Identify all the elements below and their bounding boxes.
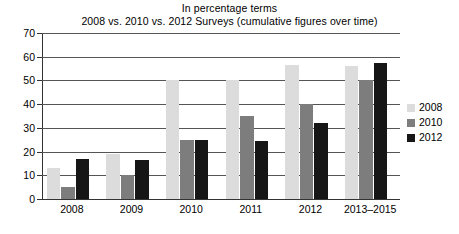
bar <box>226 80 240 199</box>
chart-title-block: In percentage terms 2008 vs. 2010 vs. 20… <box>0 2 459 28</box>
bar <box>240 116 254 199</box>
legend-item-label: 2008 <box>419 102 442 113</box>
bar <box>255 141 269 199</box>
y-axis-tick-label: 20 <box>6 147 35 158</box>
legend-swatch-icon <box>407 134 415 142</box>
gridline <box>42 57 400 58</box>
bar <box>47 168 61 199</box>
y-axis-tick-label: 60 <box>6 52 35 63</box>
legend-swatch-icon <box>407 104 415 112</box>
bar-chart: In percentage terms 2008 vs. 2010 vs. 20… <box>0 0 459 234</box>
bar <box>76 159 90 199</box>
bar <box>285 65 299 199</box>
bar <box>166 80 180 199</box>
chart-subtitle: 2008 vs. 2010 vs. 2012 Surveys (cumulati… <box>0 15 459 28</box>
bar <box>135 160 149 199</box>
y-axis-tick-label: 50 <box>6 75 35 86</box>
bar <box>359 80 373 199</box>
chart-legend: 200820102012 <box>407 101 442 146</box>
x-axis-line <box>42 199 400 200</box>
x-axis-tick-label: 2013–2015 <box>330 203 410 215</box>
legend-item[interactable]: 2012 <box>407 131 442 144</box>
bar <box>121 175 135 199</box>
bar <box>180 140 194 199</box>
chart-title: In percentage terms <box>0 2 459 15</box>
legend-swatch-icon <box>407 119 415 127</box>
legend-item[interactable]: 2010 <box>407 116 442 129</box>
bar <box>374 63 388 199</box>
bar <box>300 104 314 199</box>
legend-item-label: 2010 <box>419 117 442 128</box>
y-axis-tick-label: 40 <box>6 99 35 110</box>
bar <box>106 154 120 199</box>
plot-area <box>42 33 400 199</box>
y-axis-tick-label: 70 <box>6 28 35 39</box>
y-axis-tick-label: 0 <box>6 194 35 205</box>
bar <box>195 140 209 199</box>
legend-item[interactable]: 2008 <box>407 101 442 114</box>
bar <box>61 187 75 199</box>
legend-item-label: 2012 <box>419 132 442 143</box>
gridline <box>42 33 400 34</box>
y-axis-tick-label: 30 <box>6 123 35 134</box>
y-axis-tick-label: 10 <box>6 170 35 181</box>
bar <box>314 123 328 199</box>
bar <box>345 66 359 199</box>
